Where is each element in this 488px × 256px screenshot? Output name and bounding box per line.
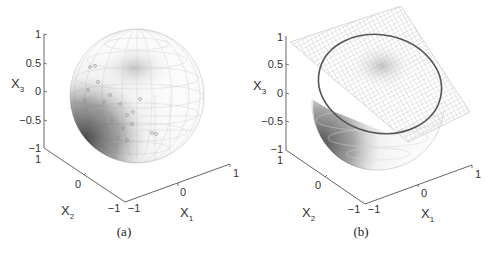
z-tick: 0	[35, 85, 41, 97]
x-tick: 1	[475, 168, 481, 180]
x-axis-a: −1 0 1 X1	[125, 164, 239, 223]
y-tick: 1	[35, 153, 41, 165]
z-tick: −0.5	[261, 115, 283, 127]
z-tick: 0.5	[26, 57, 41, 69]
y-axis-label: X2	[61, 203, 75, 221]
y-tick: 1	[277, 154, 283, 166]
z-tick: 1	[35, 28, 41, 40]
panel-b: 1 0.5 0 −0.5 −1 X3	[253, 6, 481, 239]
z-tick: 1	[277, 31, 283, 43]
x-tick: −1	[368, 203, 381, 215]
x-axis-label: X1	[180, 205, 194, 223]
z-tick: 0	[277, 87, 283, 99]
z-tick: −0.5	[19, 114, 41, 126]
y-tick: −1	[348, 203, 361, 215]
x-tick: 1	[233, 167, 239, 179]
y-tick: −1	[108, 202, 121, 214]
panel-a: 1 0.5 0 −0.5 −1 X3	[11, 28, 239, 239]
figure: 1 0.5 0 −0.5 −1 X3	[0, 0, 488, 256]
x-axis-label: X1	[421, 206, 435, 224]
caption-b: (b)	[353, 224, 368, 239]
sphere-a	[48, 29, 204, 188]
z-axis-label: X3	[253, 78, 267, 96]
y-tick: 0	[315, 179, 321, 191]
z-axis-a: 1 0.5 0 −0.5 −1 X3	[11, 28, 47, 154]
y-axis-a: 1 0 −1 X2	[35, 148, 125, 221]
z-axis-b: 1 0.5 0 −0.5 −1 X3	[253, 31, 289, 155]
y-axis-label: X2	[302, 205, 316, 223]
caption-a: (a)	[117, 224, 131, 239]
z-axis-label: X3	[11, 76, 25, 94]
z-tick: 0.5	[268, 58, 283, 70]
x-axis-b: −1 0 1 X1	[365, 165, 481, 224]
x-tick: 0	[180, 186, 186, 198]
x-tick: −1	[128, 202, 141, 214]
y-tick: 0	[75, 178, 81, 190]
x-tick: 0	[421, 187, 427, 199]
